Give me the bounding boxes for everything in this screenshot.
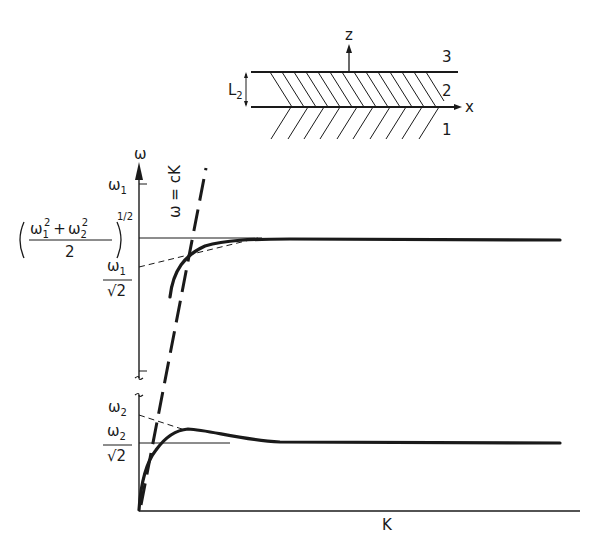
layer-2-hatching: [270, 72, 444, 107]
y-axis-label: ω: [134, 145, 147, 163]
omega2-label: ω2: [108, 398, 127, 418]
layer-3-label: 3: [442, 48, 452, 66]
omega2-over-root2-label: ω2 √2: [103, 422, 132, 465]
svg-text:1/2: 1/2: [117, 211, 133, 222]
svg-text:ω12+ω22: ω12+ω22: [30, 217, 88, 240]
svg-text:√2: √2: [107, 447, 126, 465]
axis-break-icon: [135, 377, 143, 397]
x-axis-arrow-icon: [454, 104, 462, 110]
y-axis-arrow-icon: [135, 162, 143, 180]
svg-text:2: 2: [65, 243, 75, 261]
lower-dashed-guide: [139, 415, 185, 430]
layer-2-label: 2: [442, 82, 452, 100]
upper-branch-curve: [170, 239, 560, 297]
thickness-label: L2: [228, 81, 243, 101]
upper-dashed-guide: [139, 238, 258, 267]
omega1-label: ω1: [108, 176, 127, 196]
lower-branch-curve: [139, 429, 560, 510]
layer-1-label: 1: [442, 121, 452, 139]
x-axis-label: x: [465, 98, 474, 116]
svg-text:ω2: ω2: [107, 422, 126, 442]
rms-frequency-label: ω12+ω22 2 1/2: [20, 211, 133, 261]
omega1-over-root2-label: ω1 √2: [103, 257, 132, 300]
right-paren: [117, 222, 121, 258]
light-line-label: ω = cK: [166, 164, 184, 218]
dispersion-figure: z x: [0, 0, 608, 557]
z-axis-label: z: [345, 26, 353, 44]
svg-text:ω1: ω1: [107, 257, 126, 277]
thickness-arrow-down-icon: [244, 101, 248, 107]
x-axis-label-k: K: [382, 516, 393, 534]
layer-geometry-inset: z x: [228, 26, 474, 139]
layer-1-hatching: [271, 107, 439, 139]
z-axis-arrow-icon: [346, 44, 352, 53]
dispersion-plot: ω K ω1 ω12+ω22 2 1/2 ω1: [20, 145, 580, 534]
svg-text:√2: √2: [107, 282, 126, 300]
thickness-arrow-up-icon: [244, 72, 248, 78]
left-paren: [20, 222, 24, 258]
